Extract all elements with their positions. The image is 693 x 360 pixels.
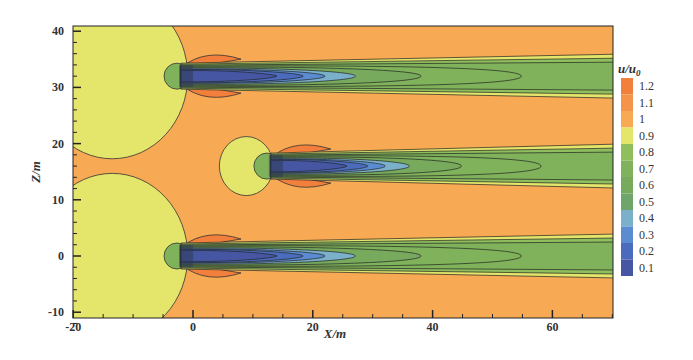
- colorbar-swatch: [621, 144, 633, 161]
- y-axis-title: Z/m: [28, 161, 43, 184]
- near-wake-region: [269, 155, 283, 177]
- colorbar-label: 0.2: [639, 244, 654, 258]
- colorbar-swatch: [621, 78, 633, 95]
- colorbar-swatch: [621, 95, 633, 112]
- y-tick-label: 40: [52, 24, 64, 38]
- y-tick-label: 10: [52, 193, 64, 207]
- colorbar-swatch: [621, 177, 633, 194]
- colorbar-label: 0.8: [639, 145, 654, 159]
- y-tick-label: -10: [48, 305, 64, 319]
- colorbar-label: 0.9: [639, 129, 654, 143]
- colorbar-label: 0.7: [639, 162, 654, 176]
- colorbar-swatch: [621, 111, 633, 128]
- colorbar-label: 1: [639, 112, 645, 126]
- x-tick-label: -20: [65, 320, 81, 334]
- x-tick-label: 60: [546, 320, 558, 334]
- plot-area: [37, 0, 618, 339]
- colorbar-swatch: [621, 260, 633, 277]
- colorbar-label: 1.1: [639, 96, 654, 110]
- y-tick-label: 30: [52, 80, 64, 94]
- colorbar-swatch: [621, 243, 633, 260]
- colorbar-swatch: [621, 194, 633, 211]
- x-axis-title: X/m: [323, 326, 346, 341]
- contour-chart: -200204060-10010203040 X/m Z/m u/u0 1.21…: [0, 0, 693, 360]
- colorbar-swatch: [621, 227, 633, 244]
- y-tick-label: 0: [58, 249, 64, 263]
- x-tick-label: 40: [427, 320, 439, 334]
- y-tick-label: 20: [52, 137, 64, 151]
- colorbar-title: u/u0: [618, 61, 641, 78]
- near-wake-region: [179, 245, 193, 267]
- colorbar-swatch: [621, 128, 633, 145]
- near-wake-region: [179, 65, 193, 87]
- colorbar-label: 0.5: [639, 195, 654, 209]
- colorbar-swatch: [621, 161, 633, 178]
- colorbar-label: 0.4: [639, 211, 654, 225]
- colorbar-label: 0.3: [639, 228, 654, 242]
- colorbar-label: 1.2: [639, 79, 654, 93]
- colorbar-label: 0.1: [639, 261, 654, 275]
- x-tick-label: 20: [307, 320, 319, 334]
- x-tick-label: 0: [190, 320, 196, 334]
- colorbar: u/u0 1.21.110.90.80.70.60.50.40.30.20.1: [618, 61, 654, 276]
- colorbar-label: 0.6: [639, 178, 654, 192]
- colorbar-swatch: [621, 210, 633, 227]
